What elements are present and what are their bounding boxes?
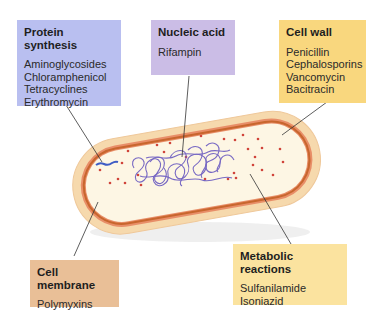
drug-rifampin: Rifampin — [158, 46, 228, 59]
drug-aminoglycosides: Aminoglycosides — [24, 58, 114, 71]
metabolic-reactions-title: Metabolic reactions — [240, 250, 340, 275]
label-protein-synthesis: Protein synthesis Aminoglycosides Chlora… — [17, 20, 121, 106]
drug-isoniazid: Isoniazid — [240, 295, 340, 308]
label-cell-wall: Cell wall Penicillin Cephalosporins Vanc… — [279, 20, 366, 103]
cell-wall-title: Cell wall — [286, 26, 359, 39]
label-nucleic-acid: Nucleic acid Rifampin — [151, 20, 235, 75]
drug-cephalosporins: Cephalosporins — [286, 58, 359, 71]
drug-penicillin: Penicillin — [286, 46, 359, 59]
bacterium-cell — [65, 104, 328, 242]
drug-sulfanilamide: Sulfanilamide — [240, 282, 340, 295]
protein-synthesis-title: Protein synthesis — [24, 26, 114, 51]
label-cell-membrane: Cell membrane Polymyxins — [30, 260, 119, 307]
leader-protein-synthesis — [66, 105, 102, 162]
label-metabolic-reactions: Metabolic reactions Sulfanilamide Isonia… — [233, 244, 347, 305]
drug-chloramphenicol: Chloramphenicol — [24, 71, 114, 84]
nucleic-acid-title: Nucleic acid — [158, 26, 228, 39]
drug-tetracyclines: Tetracyclines — [24, 83, 114, 96]
drug-bacitracin: Bacitracin — [286, 83, 359, 96]
drug-erythromycin: Erythromycin — [24, 96, 114, 109]
cell-membrane-title: Cell membrane — [37, 266, 112, 291]
drug-vancomycin: Vancomycin — [286, 71, 359, 84]
drug-polymyxins: Polymyxins — [37, 298, 112, 311]
